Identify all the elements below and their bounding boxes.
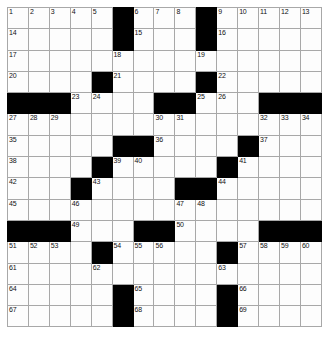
crossword-cell[interactable]: 23 bbox=[70, 93, 91, 114]
crossword-cell[interactable]: 58 bbox=[259, 242, 280, 263]
crossword-cell[interactable] bbox=[28, 284, 49, 305]
crossword-cell[interactable]: 30 bbox=[154, 114, 175, 135]
crossword-cell[interactable] bbox=[259, 29, 280, 50]
crossword-cell[interactable]: 42 bbox=[8, 178, 29, 199]
crossword-cell[interactable] bbox=[112, 114, 133, 135]
crossword-cell[interactable] bbox=[70, 71, 91, 92]
crossword-cell[interactable] bbox=[175, 306, 196, 327]
crossword-cell[interactable] bbox=[175, 29, 196, 50]
crossword-cell[interactable]: 25 bbox=[196, 93, 217, 114]
crossword-cell[interactable] bbox=[279, 157, 300, 178]
crossword-cell[interactable] bbox=[300, 199, 321, 220]
crossword-cell[interactable]: 60 bbox=[300, 242, 321, 263]
crossword-cell[interactable] bbox=[259, 178, 280, 199]
crossword-cell[interactable] bbox=[279, 263, 300, 284]
crossword-cell[interactable] bbox=[175, 135, 196, 156]
crossword-cell[interactable]: 56 bbox=[154, 242, 175, 263]
crossword-cell[interactable] bbox=[196, 114, 217, 135]
crossword-cell[interactable] bbox=[28, 178, 49, 199]
crossword-cell[interactable] bbox=[196, 284, 217, 305]
crossword-cell[interactable] bbox=[238, 50, 259, 71]
crossword-cell[interactable]: 16 bbox=[217, 29, 238, 50]
crossword-cell[interactable] bbox=[70, 29, 91, 50]
crossword-cell[interactable] bbox=[175, 50, 196, 71]
crossword-cell[interactable] bbox=[300, 50, 321, 71]
crossword-cell[interactable] bbox=[217, 199, 238, 220]
crossword-cell[interactable]: 63 bbox=[217, 263, 238, 284]
crossword-cell[interactable] bbox=[300, 263, 321, 284]
crossword-cell[interactable] bbox=[91, 114, 112, 135]
crossword-cell[interactable]: 14 bbox=[8, 29, 29, 50]
crossword-cell[interactable] bbox=[133, 93, 154, 114]
crossword-cell[interactable]: 19 bbox=[196, 50, 217, 71]
crossword-cell[interactable]: 61 bbox=[8, 263, 29, 284]
crossword-cell[interactable]: 33 bbox=[279, 114, 300, 135]
crossword-cell[interactable]: 6 bbox=[133, 8, 154, 29]
crossword-cell[interactable] bbox=[238, 178, 259, 199]
crossword-cell[interactable] bbox=[175, 242, 196, 263]
crossword-cell[interactable]: 46 bbox=[70, 199, 91, 220]
crossword-cell[interactable]: 34 bbox=[300, 114, 321, 135]
crossword-cell[interactable]: 55 bbox=[133, 242, 154, 263]
crossword-cell[interactable]: 18 bbox=[112, 50, 133, 71]
crossword-cell[interactable] bbox=[217, 220, 238, 241]
crossword-cell[interactable]: 65 bbox=[133, 284, 154, 305]
crossword-cell[interactable]: 39 bbox=[112, 157, 133, 178]
crossword-cell[interactable] bbox=[154, 157, 175, 178]
crossword-cell[interactable] bbox=[49, 178, 70, 199]
crossword-cell[interactable] bbox=[259, 306, 280, 327]
crossword-cell[interactable] bbox=[279, 284, 300, 305]
crossword-cell[interactable]: 10 bbox=[238, 8, 259, 29]
crossword-cell[interactable] bbox=[300, 284, 321, 305]
crossword-cell[interactable] bbox=[28, 50, 49, 71]
crossword-cell[interactable] bbox=[28, 29, 49, 50]
crossword-cell[interactable]: 50 bbox=[175, 220, 196, 241]
crossword-cell[interactable]: 40 bbox=[133, 157, 154, 178]
crossword-cell[interactable] bbox=[112, 263, 133, 284]
crossword-cell[interactable]: 24 bbox=[91, 93, 112, 114]
crossword-cell[interactable]: 62 bbox=[91, 263, 112, 284]
crossword-cell[interactable] bbox=[28, 263, 49, 284]
crossword-cell[interactable] bbox=[154, 178, 175, 199]
crossword-cell[interactable]: 52 bbox=[28, 242, 49, 263]
crossword-cell[interactable] bbox=[49, 306, 70, 327]
crossword-cell[interactable]: 51 bbox=[8, 242, 29, 263]
crossword-cell[interactable]: 26 bbox=[217, 93, 238, 114]
crossword-cell[interactable] bbox=[238, 263, 259, 284]
crossword-cell[interactable] bbox=[300, 29, 321, 50]
crossword-cell[interactable] bbox=[279, 71, 300, 92]
crossword-cell[interactable]: 27 bbox=[8, 114, 29, 135]
crossword-cell[interactable] bbox=[70, 242, 91, 263]
crossword-cell[interactable]: 48 bbox=[196, 199, 217, 220]
crossword-cell[interactable] bbox=[112, 178, 133, 199]
crossword-cell[interactable] bbox=[91, 199, 112, 220]
crossword-cell[interactable] bbox=[279, 135, 300, 156]
crossword-cell[interactable] bbox=[49, 50, 70, 71]
crossword-cell[interactable] bbox=[196, 263, 217, 284]
crossword-cell[interactable]: 45 bbox=[8, 199, 29, 220]
crossword-cell[interactable] bbox=[259, 50, 280, 71]
crossword-cell[interactable] bbox=[175, 71, 196, 92]
crossword-cell[interactable] bbox=[28, 71, 49, 92]
crossword-cell[interactable] bbox=[154, 263, 175, 284]
crossword-cell[interactable] bbox=[279, 199, 300, 220]
crossword-cell[interactable]: 13 bbox=[300, 8, 321, 29]
crossword-cell[interactable] bbox=[217, 50, 238, 71]
crossword-cell[interactable] bbox=[112, 93, 133, 114]
crossword-cell[interactable]: 67 bbox=[8, 306, 29, 327]
crossword-cell[interactable]: 44 bbox=[217, 178, 238, 199]
crossword-cell[interactable]: 68 bbox=[133, 306, 154, 327]
crossword-cell[interactable] bbox=[175, 284, 196, 305]
crossword-cell[interactable]: 43 bbox=[91, 178, 112, 199]
crossword-cell[interactable] bbox=[154, 199, 175, 220]
crossword-cell[interactable]: 36 bbox=[154, 135, 175, 156]
crossword-cell[interactable] bbox=[112, 199, 133, 220]
crossword-cell[interactable] bbox=[28, 135, 49, 156]
crossword-cell[interactable] bbox=[49, 157, 70, 178]
crossword-cell[interactable] bbox=[196, 242, 217, 263]
crossword-cell[interactable]: 8 bbox=[175, 8, 196, 29]
crossword-cell[interactable]: 35 bbox=[8, 135, 29, 156]
crossword-cell[interactable] bbox=[300, 71, 321, 92]
crossword-cell[interactable]: 53 bbox=[49, 242, 70, 263]
crossword-cell[interactable] bbox=[70, 50, 91, 71]
